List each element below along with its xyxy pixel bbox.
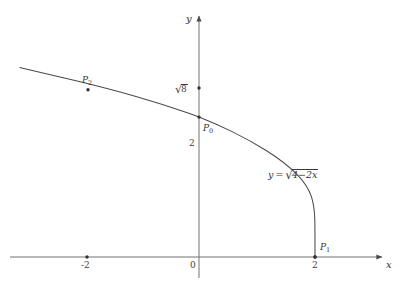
x-tick-label-neg2: -2	[81, 261, 90, 270]
plot-canvas	[0, 0, 403, 288]
point-label-P1-subscript: 1	[326, 246, 330, 254]
point-label-P0: P0	[203, 124, 213, 133]
point-label-P2-subscript: 2	[88, 79, 92, 87]
point-marker-P0	[197, 115, 200, 118]
sqrt-group-equation: √4−2x	[285, 168, 318, 180]
tick-marker-x-neg2	[85, 255, 88, 258]
x-tick-label-2: 2	[312, 261, 318, 270]
equation-equals: =	[275, 169, 283, 180]
function-curve	[20, 68, 315, 257]
y-tick-label-2: 2	[189, 139, 195, 148]
tick-marker-sqrt8	[197, 86, 200, 89]
point-marker-P2	[86, 88, 89, 91]
function-equation-label: y=√4−2x	[268, 168, 318, 180]
point-label-P2: P2	[82, 76, 92, 85]
y-axis-label: y	[186, 14, 192, 24]
point-label-P1: P1	[320, 243, 330, 252]
radical-sign-icon: √	[175, 83, 182, 96]
equation-lhs: y	[268, 169, 273, 180]
math-figure: y x 0 -2 2 2 √8 P0 P1 P2 y=√4−2x	[0, 0, 403, 288]
point-label-P0-subscript: 0	[209, 127, 213, 135]
y-tick-label-sqrt8: √8	[175, 83, 188, 94]
radicand-expression: 4−2x	[292, 169, 319, 180]
origin-label: 0	[190, 261, 196, 270]
tick-marker-x-2	[313, 255, 316, 258]
sqrt-group-8: √8	[175, 83, 188, 94]
x-axis-label: x	[386, 260, 392, 270]
radical-sign-icon: √	[285, 168, 293, 182]
